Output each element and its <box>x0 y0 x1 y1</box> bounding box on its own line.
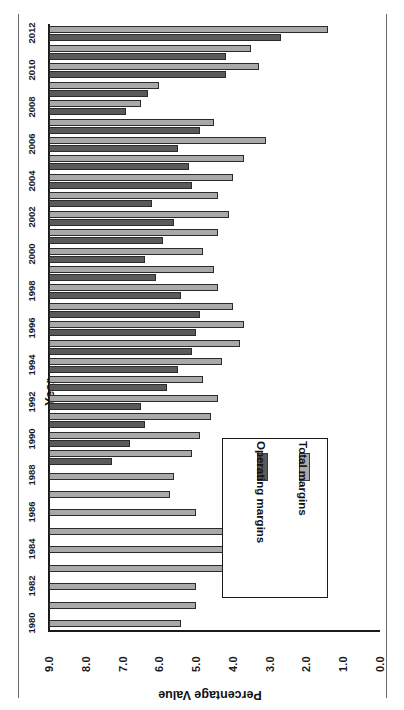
bar-total-margins-1988 <box>49 473 174 480</box>
bar-total-margins-1986 <box>49 509 196 516</box>
category-tick-1984: 1984 <box>26 536 40 562</box>
bar-operating-margins-1996 <box>49 329 196 336</box>
bar-operating-margins-2004 <box>49 182 192 189</box>
bar-total-margins-1998 <box>49 284 218 291</box>
bar-total-margins-1983 <box>49 565 233 572</box>
bar-total-margins-1990 <box>49 432 200 439</box>
bar-total-margins-1989 <box>49 450 192 457</box>
bar-group-1983 <box>49 558 380 576</box>
bar-operating-margins-2007 <box>49 127 200 134</box>
bar-operating-margins-2011 <box>49 53 226 60</box>
bar-total-margins-2012 <box>49 26 329 33</box>
bar-operating-margins-1989 <box>49 458 112 465</box>
bar-group-2005 <box>49 153 380 171</box>
chart-legend: Total margins Operating margins <box>222 438 328 598</box>
bar-group-1987 <box>49 485 380 503</box>
value-tick-3-0: 3.0 <box>264 647 276 681</box>
bar-group-2001 <box>49 227 380 245</box>
bar-group-1990 <box>49 429 380 447</box>
bar-operating-margins-1999 <box>49 274 156 281</box>
bar-operating-margins-2003 <box>49 200 152 207</box>
bar-total-margins-2004 <box>49 174 233 181</box>
bar-total-margins-1982 <box>49 583 196 590</box>
bar-operating-margins-1994 <box>49 366 178 373</box>
legend-label-operating-margins: Operating margins <box>255 441 267 537</box>
bar-group-1982 <box>49 577 380 595</box>
bar-group-1989 <box>49 448 380 466</box>
bar-group-2009 <box>49 79 380 97</box>
bar-group-2004 <box>49 171 380 189</box>
category-tick-2012: 2012 <box>26 20 40 46</box>
bar-group-1981 <box>49 595 380 613</box>
bar-group-2006 <box>49 135 380 153</box>
legend-entry-total-margins: Total margins <box>277 449 319 587</box>
bar-operating-margins-2012 <box>49 34 281 41</box>
legend-label-total-margins: Total margins <box>297 441 309 537</box>
value-tick-6-0: 6.0 <box>153 647 165 681</box>
bar-operating-margins-2006 <box>49 145 178 152</box>
bar-group-1994 <box>49 356 380 374</box>
bar-total-margins-1999 <box>49 266 215 273</box>
bar-total-margins-1981 <box>49 602 196 609</box>
value-tick-5-0: 5.0 <box>190 647 202 681</box>
bar-total-margins-2008 <box>49 100 141 107</box>
bar-group-1986 <box>49 503 380 521</box>
bar-operating-margins-2009 <box>49 90 148 97</box>
bar-group-2002 <box>49 208 380 226</box>
bar-total-margins-1993 <box>49 377 203 384</box>
bar-group-2007 <box>49 116 380 134</box>
category-tick-1994: 1994 <box>26 352 40 378</box>
value-tick-8-0: 8.0 <box>80 647 92 681</box>
category-tick-2010: 2010 <box>26 57 40 83</box>
bar-group-1988 <box>49 466 380 484</box>
page-frame-line-left <box>18 14 19 698</box>
bar-operating-margins-1997 <box>49 311 200 318</box>
bar-group-2008 <box>49 98 380 116</box>
value-axis-ticks: 0.01.02.03.04.05.06.07.08.09.0 <box>38 634 386 670</box>
bar-total-margins-1992 <box>49 395 218 402</box>
bar-group-1985 <box>49 521 380 539</box>
category-tick-2006: 2006 <box>26 131 40 157</box>
value-tick-0-0: 0.0 <box>374 647 386 681</box>
bars-area <box>49 24 380 632</box>
category-tick-1992: 1992 <box>26 389 40 415</box>
bar-group-1992 <box>49 393 380 411</box>
bar-total-margins-1987 <box>49 491 170 498</box>
bar-operating-margins-1993 <box>49 385 167 392</box>
bar-group-2003 <box>49 190 380 208</box>
rotated-figure-container: Percentage Value 0.01.02.03.04.05.06.07.… <box>20 6 386 706</box>
bar-total-margins-1980 <box>49 620 181 627</box>
bar-group-2012 <box>49 24 380 42</box>
bar-total-margins-2009 <box>49 82 159 89</box>
bar-chart: Percentage Value 0.01.02.03.04.05.06.07.… <box>20 6 386 706</box>
category-tick-1990: 1990 <box>26 426 40 452</box>
category-tick-2002: 2002 <box>26 204 40 230</box>
bar-total-margins-1991 <box>49 413 211 420</box>
bar-operating-margins-2001 <box>49 237 163 244</box>
category-tick-1982: 1982 <box>26 573 40 599</box>
category-tick-2000: 2000 <box>26 241 40 267</box>
bar-operating-margins-1998 <box>49 292 181 299</box>
value-tick-2-0: 2.0 <box>300 647 312 681</box>
bar-group-1996 <box>49 319 380 337</box>
bar-total-margins-2002 <box>49 211 229 218</box>
bar-group-1998 <box>49 282 380 300</box>
category-tick-2008: 2008 <box>26 94 40 120</box>
bar-total-margins-2011 <box>49 45 251 52</box>
bar-total-margins-2007 <box>49 119 215 126</box>
bar-operating-margins-1991 <box>49 421 145 428</box>
bar-total-margins-1997 <box>49 303 233 310</box>
bar-total-margins-2010 <box>49 63 259 70</box>
value-tick-1-0: 1.0 <box>337 647 349 681</box>
category-axis-ticks: 1980198219841986198819901992199419961998… <box>20 24 46 632</box>
bar-total-margins-2006 <box>49 137 266 144</box>
bar-group-1995 <box>49 337 380 355</box>
category-tick-2004: 2004 <box>26 168 40 194</box>
value-tick-4-0: 4.0 <box>227 647 239 681</box>
bar-group-2000 <box>49 245 380 263</box>
category-tick-1986: 1986 <box>26 499 40 525</box>
category-tick-1980: 1980 <box>26 610 40 636</box>
bar-group-1999 <box>49 264 380 282</box>
bar-total-margins-2003 <box>49 192 218 199</box>
bar-group-1991 <box>49 411 380 429</box>
